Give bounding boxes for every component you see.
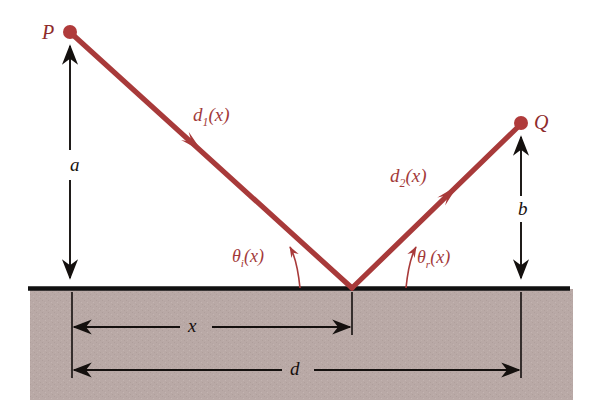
label-height-b: b bbox=[518, 199, 528, 218]
label-point-q: Q bbox=[534, 112, 548, 132]
label-angle-reflection: θr(x) bbox=[417, 248, 450, 270]
label-reflected-distance-argument: (x) bbox=[405, 165, 426, 186]
point-q-marker bbox=[514, 116, 528, 130]
label-reflected-distance: d2(x) bbox=[390, 166, 426, 190]
label-height-a: a bbox=[70, 155, 80, 174]
angle-reflection-arc bbox=[406, 247, 416, 288]
diagram-canvas bbox=[0, 0, 602, 412]
label-angle-reflection-argument: (x) bbox=[430, 247, 450, 267]
label-distance-x: x bbox=[188, 316, 196, 335]
label-reflected-distance-base: d bbox=[390, 165, 400, 186]
label-angle-reflection-base: θ bbox=[417, 247, 426, 267]
point-p-marker bbox=[63, 25, 77, 39]
angle-incidence-arc bbox=[290, 247, 300, 288]
ground-block bbox=[30, 289, 573, 400]
label-angle-incidence: θi(x) bbox=[232, 247, 264, 269]
label-distance-d: d bbox=[290, 359, 300, 378]
label-incident-distance-argument: (x) bbox=[208, 104, 229, 125]
incident-ray bbox=[72, 34, 352, 288]
reflection-diagram: P Q d1(x) d2(x) θi(x) θr(x) a b x d bbox=[0, 0, 602, 412]
label-incident-distance-base: d bbox=[193, 104, 203, 125]
label-incident-distance: d1(x) bbox=[193, 105, 229, 129]
label-angle-incidence-argument: (x) bbox=[244, 246, 264, 266]
label-angle-incidence-base: θ bbox=[232, 246, 241, 266]
label-point-p: P bbox=[42, 22, 54, 42]
